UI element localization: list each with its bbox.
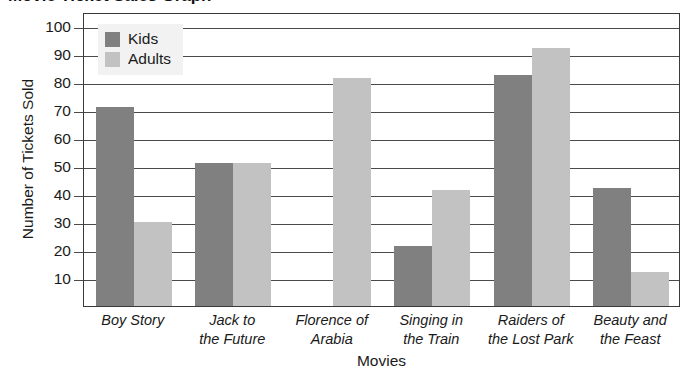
bar-kids: [593, 188, 631, 306]
y-axis-tick-mark: [74, 84, 83, 85]
x-axis-tick-label: Singing inthe Train: [382, 311, 482, 349]
x-axis-tick-label: Florence ofArabia: [282, 311, 382, 349]
x-axis-tick-label-line: Jack to: [183, 311, 283, 330]
bar-kids: [195, 163, 233, 306]
x-axis-tick-label: Jack tothe Future: [183, 311, 283, 349]
y-axis-tick-label: 100: [27, 19, 71, 35]
y-axis-tick-label: 60: [27, 131, 71, 147]
y-axis-tick-mark: [74, 168, 83, 169]
bar-adults: [432, 190, 470, 306]
y-axis-tick-mark: [74, 252, 83, 253]
chart-title: Movie Ticket Sales Graph: [8, 0, 211, 6]
y-axis-tick-label: 20: [27, 243, 71, 259]
x-axis-tick-label-line: Singing in: [382, 311, 482, 330]
x-axis-tick-label-line: the Train: [382, 330, 482, 349]
bar-kids: [494, 75, 532, 306]
y-axis-tick-label: 70: [27, 103, 71, 119]
y-axis-tick-label: 50: [27, 159, 71, 175]
x-axis-tick-label-line: Arabia: [282, 330, 382, 349]
y-axis-tick-mark: [74, 140, 83, 141]
y-axis-tick-mark: [74, 112, 83, 113]
plot-area: Kids Adults: [83, 13, 680, 307]
y-axis-tick-label: 30: [27, 215, 71, 231]
bar-kids: [96, 107, 134, 306]
legend-item-adults: Adults: [105, 49, 171, 69]
y-axis-tick-mark: [74, 196, 83, 197]
y-axis-tick-label: 40: [27, 187, 71, 203]
x-axis-tick-label: Beauty andthe Feast: [581, 311, 681, 349]
bar-adults: [532, 48, 570, 306]
x-axis-title: Movies: [83, 352, 680, 370]
y-axis-tick-mark: [74, 224, 83, 225]
legend-label-adults: Adults: [128, 51, 171, 67]
bar-adults: [631, 272, 669, 306]
x-axis-tick-label-line: Florence of: [282, 311, 382, 330]
legend-label-kids: Kids: [128, 31, 158, 47]
bar-adults: [333, 78, 371, 306]
y-axis-tick-mark: [74, 56, 83, 57]
x-axis-tick-label-line: the Lost Park: [481, 330, 581, 349]
y-axis-tick-mark: [74, 280, 83, 281]
y-axis-tick-label: 90: [27, 47, 71, 63]
x-axis-tick-label-line: the Future: [183, 330, 283, 349]
y-axis-tick-label: 10: [27, 271, 71, 287]
legend-item-kids: Kids: [105, 29, 171, 49]
bar-adults: [134, 222, 172, 306]
x-axis-tick-label: Raiders ofthe Lost Park: [481, 311, 581, 349]
x-axis-tick-label: Boy Story: [83, 311, 183, 330]
chart-legend: Kids Adults: [98, 24, 183, 75]
x-axis-tick-label-line: Boy Story: [83, 311, 183, 330]
legend-swatch-kids-icon: [105, 32, 120, 47]
x-axis-tick-label-line: the Feast: [581, 330, 681, 349]
y-axis-tick-mark: [74, 28, 83, 29]
x-axis-tick-label-line: Beauty and: [581, 311, 681, 330]
y-axis-tick-label: 80: [27, 75, 71, 91]
legend-swatch-adults-icon: [105, 52, 120, 67]
bar-kids: [394, 246, 432, 306]
x-axis-tick-labels: Boy StoryJack tothe FutureFlorence ofAra…: [83, 311, 680, 355]
x-axis-tick-label-line: Raiders of: [481, 311, 581, 330]
bar-chart: Movie Ticket Sales Graph Number of Ticke…: [0, 0, 687, 373]
bar-adults: [233, 163, 271, 306]
